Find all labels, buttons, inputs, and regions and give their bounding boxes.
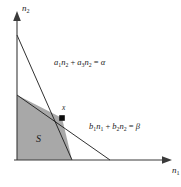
x-axis-arrowhead (162, 156, 172, 164)
beta-equals: = (127, 121, 136, 131)
y-axis-label: n2 (22, 4, 30, 14)
y-axis-label-subscript: 2 (27, 8, 30, 14)
diagram-canvas (0, 0, 181, 187)
feasible-region-label: S (36, 134, 41, 144)
beta-rhs: β (136, 121, 140, 131)
y-axis-arrowhead (13, 11, 21, 21)
intersection-point-label: x (62, 104, 65, 112)
alpha-rhs: α (101, 57, 105, 67)
feasible-region-diagram: n2 n1 a1n2 + a3n2 = α b1n1 + b2n2 = β S … (0, 0, 181, 187)
constraint-beta-label: b1n1 + b2n2 = β (89, 122, 140, 132)
intersection-point-marker (59, 115, 65, 121)
x-axis-label: n1 (172, 166, 180, 176)
alpha-plus: + (68, 57, 77, 67)
alpha-equals: = (92, 57, 101, 67)
beta-plus: + (103, 121, 112, 131)
constraint-alpha-label: a1n2 + a3n2 = α (54, 58, 105, 68)
x-axis-label-subscript: 1 (177, 170, 180, 176)
